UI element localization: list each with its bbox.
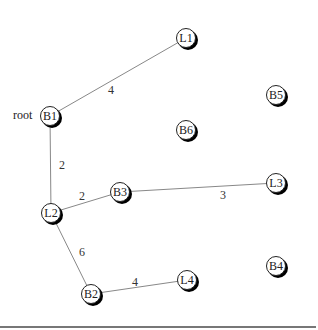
edges-layer bbox=[0, 0, 318, 330]
edge-b1-l1 bbox=[50, 38, 186, 116]
node-label: L3 bbox=[269, 177, 282, 189]
node-label: B6 bbox=[179, 124, 193, 136]
node-label: B4 bbox=[269, 260, 283, 272]
node-label: B5 bbox=[269, 89, 283, 101]
node-b5[interactable]: B5 bbox=[266, 85, 286, 105]
edge-b2-l4 bbox=[91, 280, 187, 294]
edge-weight-b1-l1: 4 bbox=[108, 83, 114, 98]
node-l2[interactable]: L2 bbox=[41, 203, 61, 223]
node-b3[interactable]: B3 bbox=[110, 182, 130, 202]
node-b2[interactable]: B2 bbox=[81, 284, 101, 304]
node-l3[interactable]: L3 bbox=[266, 173, 286, 193]
node-b6[interactable]: B6 bbox=[176, 120, 196, 140]
edge-weight-b3-l3: 3 bbox=[220, 188, 226, 203]
node-b1[interactable]: B1 bbox=[40, 106, 60, 126]
node-label: L4 bbox=[180, 274, 193, 286]
root-label: root bbox=[13, 108, 32, 123]
graph-canvas: root B1 L1 B5 B6 L2 B3 L3 B4 B2 L4 4 2 2… bbox=[0, 0, 318, 330]
node-label: L1 bbox=[179, 32, 192, 44]
node-l1[interactable]: L1 bbox=[176, 28, 196, 48]
node-label: B1 bbox=[43, 110, 57, 122]
edge-weight-b1-l2: 2 bbox=[59, 158, 65, 173]
bottom-divider bbox=[0, 326, 316, 328]
node-b4[interactable]: B4 bbox=[266, 256, 286, 276]
edge-weight-b2-l4: 4 bbox=[132, 275, 138, 290]
node-label: B2 bbox=[84, 288, 98, 300]
node-label: L2 bbox=[44, 207, 57, 219]
edge-b3-l3 bbox=[120, 183, 276, 192]
node-label: B3 bbox=[113, 186, 127, 198]
node-l4[interactable]: L4 bbox=[177, 270, 197, 290]
edge-l2-b2 bbox=[51, 213, 91, 294]
edge-weight-l2-b2: 6 bbox=[79, 245, 85, 260]
edge-weight-l2-b3: 2 bbox=[79, 189, 85, 204]
edge-b1-l2 bbox=[50, 116, 51, 213]
